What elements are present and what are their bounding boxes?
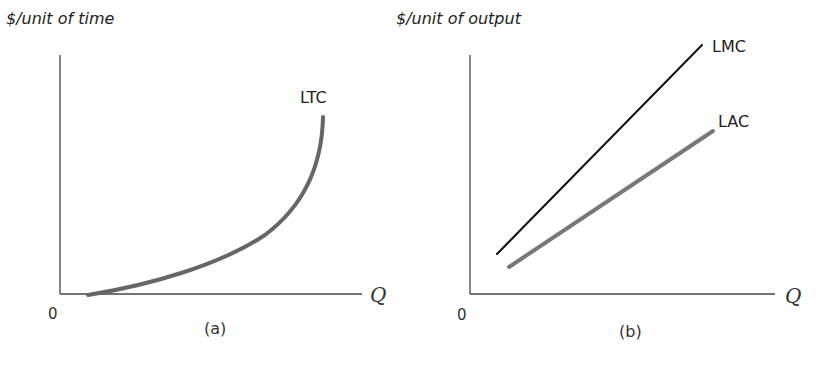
lmc-label: LMC — [712, 37, 746, 56]
lac-line — [509, 131, 713, 267]
panel-b: $/unit of output LMC LAC Q 0 (b) — [396, 9, 801, 341]
ltc-label: LTC — [300, 88, 327, 107]
lac-label: LAC — [718, 112, 749, 131]
panel-a-x-axis-label: Q — [370, 283, 386, 307]
panel-a: $/unit of time LTC Q 0 (a) — [6, 9, 386, 338]
panel-b-caption: (b) — [619, 322, 642, 341]
panel-b-origin-label: 0 — [457, 306, 467, 324]
figure: $/unit of time LTC Q 0 (a) $/unit of out… — [0, 0, 823, 366]
panel-a-y-axis-label: $/unit of time — [6, 9, 114, 28]
panel-a-caption: (a) — [204, 319, 226, 338]
panel-b-y-axis-label: $/unit of output — [396, 9, 522, 28]
panel-a-origin-label: 0 — [48, 305, 58, 323]
lmc-line — [497, 45, 702, 254]
panel-b-x-axis-label: Q — [785, 284, 801, 308]
ltc-curve — [88, 117, 323, 295]
